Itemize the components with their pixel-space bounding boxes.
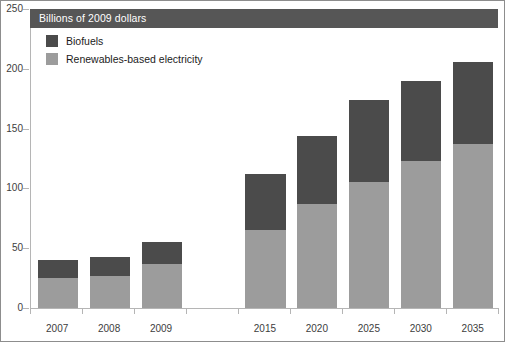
bar-segment-biofuels[interactable] xyxy=(90,257,130,276)
x-axis-label-2030: 2030 xyxy=(410,323,432,334)
bar-segment-biofuels[interactable] xyxy=(401,81,441,161)
x-axis-label-2008: 2008 xyxy=(98,323,120,334)
bar-segment-renewables[interactable] xyxy=(90,276,130,308)
bar-2025[interactable] xyxy=(349,100,389,308)
x-axis-tick-mark xyxy=(238,308,239,314)
bars-layer xyxy=(31,9,498,308)
x-axis-label-2020: 2020 xyxy=(306,323,328,334)
x-axis-label-2035: 2035 xyxy=(462,323,484,334)
x-axis-label-2015: 2015 xyxy=(254,323,276,334)
bar-2009[interactable] xyxy=(142,242,182,308)
x-axis-label-2007: 2007 xyxy=(46,323,68,334)
bar-segment-biofuels[interactable] xyxy=(297,136,337,204)
bar-segment-renewables[interactable] xyxy=(297,204,337,308)
bar-segment-renewables[interactable] xyxy=(38,278,78,308)
y-axis-tick-mark xyxy=(23,69,29,70)
x-axis-label-2009: 2009 xyxy=(150,323,172,334)
x-axis-tick-mark xyxy=(342,308,343,314)
x-axis-tick-mark xyxy=(186,308,187,314)
y-axis-tick-mark xyxy=(23,129,29,130)
x-axis-tick-mark xyxy=(290,308,291,314)
y-axis-tick-mark xyxy=(23,308,29,309)
bar-segment-renewables[interactable] xyxy=(245,230,285,308)
bar-segment-renewables[interactable] xyxy=(453,144,493,308)
y-axis: 050100150200250 xyxy=(1,1,30,342)
bar-2007[interactable] xyxy=(38,260,78,308)
bar-segment-biofuels[interactable] xyxy=(142,242,182,264)
x-axis-tick-mark xyxy=(498,308,499,314)
bar-2008[interactable] xyxy=(90,257,130,308)
x-axis-tick-mark xyxy=(30,308,31,314)
bar-segment-biofuels[interactable] xyxy=(245,174,285,230)
y-axis-tick-mark xyxy=(23,188,29,189)
bar-2015[interactable] xyxy=(245,174,285,308)
y-axis-tick-mark xyxy=(23,248,29,249)
x-axis-tick-mark xyxy=(134,308,135,314)
x-axis-label-2025: 2025 xyxy=(358,323,380,334)
bar-segment-biofuels[interactable] xyxy=(349,100,389,183)
x-axis-tick-mark xyxy=(394,308,395,314)
bar-segment-biofuels[interactable] xyxy=(453,62,493,145)
bar-segment-renewables[interactable] xyxy=(349,182,389,308)
x-axis-tick-mark xyxy=(82,308,83,314)
x-axis: 20072008200920152020202520302035 xyxy=(30,308,498,342)
bar-segment-renewables[interactable] xyxy=(142,264,182,308)
x-axis-tick-mark xyxy=(446,308,447,314)
bar-segment-renewables[interactable] xyxy=(401,161,441,308)
bar-2035[interactable] xyxy=(453,62,493,308)
bar-segment-biofuels[interactable] xyxy=(38,260,78,278)
bar-2020[interactable] xyxy=(297,136,337,308)
y-axis-tick-mark xyxy=(23,9,29,10)
bar-2030[interactable] xyxy=(401,81,441,308)
chart-container: 050100150200250 Billions of 2009 dollars… xyxy=(0,0,505,342)
